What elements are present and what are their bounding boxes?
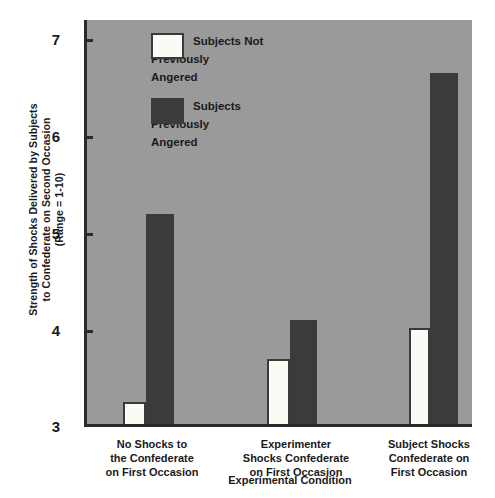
legend-swatch-dark: [151, 98, 184, 124]
legend: Subjects Not Previously Angered Subjects…: [151, 31, 341, 161]
legend-swatch-light: [151, 33, 184, 59]
bar-group1-angered: [146, 214, 174, 424]
bar-group1-not-angered: [123, 402, 146, 424]
bar-group2-angered: [290, 320, 317, 424]
bar-group2-not-angered: [267, 359, 290, 424]
y-tick-mark-7: [84, 39, 93, 42]
y-tick-mark-4: [84, 330, 93, 333]
x-axis-title: Experimental Condition: [190, 473, 390, 487]
bar-group3-not-angered: [409, 328, 430, 424]
legend-item-not-angered: Subjects Not Previously Angered: [151, 31, 341, 85]
y-tick-label-3: 3: [38, 419, 60, 434]
y-tick-mark-6: [84, 136, 93, 139]
y-tick-mark-5: [84, 233, 93, 236]
y-axis-title: Strength of Shocks Delivered by Subjects…: [27, 45, 66, 375]
bar-chart-figure: Subjects Not Previously Angered Subjects…: [0, 0, 495, 498]
plot-area: Subjects Not Previously Angered Subjects…: [84, 20, 472, 427]
legend-item-angered: Subjects Previously Angered: [151, 96, 341, 150]
bar-group3-angered: [430, 73, 458, 424]
